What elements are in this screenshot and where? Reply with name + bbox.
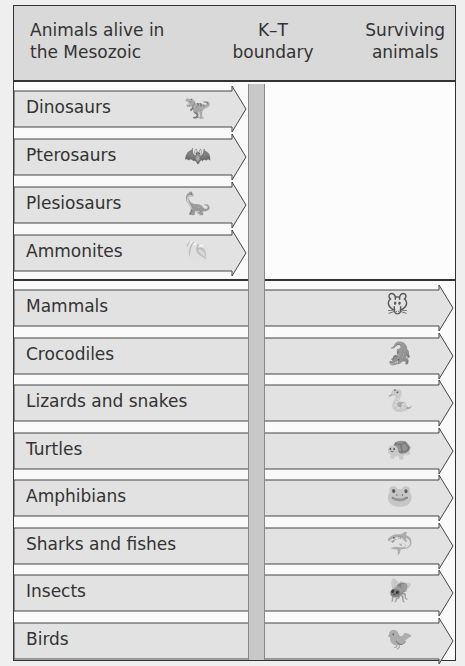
surviving-row-turtles: Turtles🐢: [14, 428, 453, 474]
header-text: animals: [365, 41, 445, 63]
diagram-frame: Animals alive in the Mesozoic K–T bounda…: [13, 5, 456, 661]
dragonfly-icon: 🪰: [386, 578, 413, 603]
row-label: Mammals: [26, 296, 108, 316]
header-text: Surviving: [365, 19, 445, 41]
ammonite-icon: 🐚: [184, 239, 211, 264]
row-label: Ammonites: [26, 241, 123, 261]
row-label: Sharks and fishes: [26, 534, 176, 554]
header-mesozoic: Animals alive in the Mesozoic: [30, 19, 164, 63]
header-text: K–T: [223, 19, 323, 41]
row-label: Dinosaurs: [26, 97, 111, 117]
row-label: Plesiosaurs: [26, 193, 121, 213]
dinosaur-icon: 🦖: [184, 95, 211, 120]
empty-survivor-box: [264, 82, 455, 279]
header-text: the Mesozoic: [30, 41, 164, 63]
surviving-section: Mammals🐭 Crocodiles🐊 Lizards and snakes🐍…: [14, 281, 455, 660]
surviving-row-lizards-and-snakes: Lizards and snakes🐍: [14, 380, 453, 426]
extinct-section: Dinosaurs🦖 Pterosaurs🦇 Plesiosaurs🦕 Ammo…: [14, 82, 455, 281]
row-label: Pterosaurs: [26, 145, 116, 165]
extinct-row-plesiosaurs: Plesiosaurs🦕: [14, 182, 246, 228]
extinct-row-ammonites: Ammonites🐚: [14, 230, 246, 276]
extinct-row-dinosaurs: Dinosaurs🦖: [14, 86, 246, 132]
crocodile-icon: 🐊: [386, 341, 413, 366]
row-label: Amphibians: [26, 486, 126, 506]
snake-icon: 🐍: [386, 388, 413, 413]
turtle-icon: 🐢: [386, 436, 413, 461]
header-text: Animals alive in: [30, 19, 164, 41]
surviving-row-sharks-and-fishes: Sharks and fishes🦈: [14, 523, 453, 569]
surviving-row-crocodiles: Crocodiles🐊: [14, 333, 453, 379]
row-label: Lizards and snakes: [26, 391, 187, 411]
plesiosaur-icon: 🦕: [184, 191, 211, 216]
mouse-icon: 🐭: [386, 293, 409, 318]
extinct-row-pterosaurs: Pterosaurs🦇: [14, 134, 246, 180]
kt-boundary-bar: [248, 84, 265, 660]
row-label: Insects: [26, 581, 86, 601]
surviving-row-insects: Insects🪰: [14, 570, 453, 616]
bird-icon: 🐦: [386, 626, 413, 651]
frog-icon: 🐸: [386, 483, 413, 508]
pterosaur-icon: 🦇: [184, 143, 211, 168]
surviving-row-mammals: Mammals🐭: [14, 285, 453, 331]
row-label: Crocodiles: [26, 344, 114, 364]
surviving-row-birds: Birds🐦: [14, 618, 453, 664]
row-label: Turtles: [26, 439, 82, 459]
header-surviving: Surviving animals: [365, 19, 445, 63]
row-label: Birds: [26, 629, 69, 649]
header: Animals alive in the Mesozoic K–T bounda…: [14, 6, 455, 82]
header-text: boundary: [223, 41, 323, 63]
header-kt-boundary: K–T boundary: [223, 19, 323, 63]
surviving-row-amphibians: Amphibians🐸: [14, 475, 453, 521]
shark-icon: 🦈: [386, 531, 413, 556]
